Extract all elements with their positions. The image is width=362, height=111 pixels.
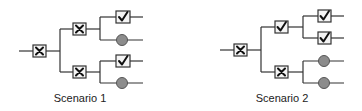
scenario-1-tree bbox=[19, 11, 143, 89]
scenario-1-label: Scenario 1 bbox=[54, 92, 107, 104]
leaf-circle-node bbox=[319, 78, 330, 89]
leaf-check-node bbox=[116, 55, 130, 67]
leaf-circle-node bbox=[117, 35, 128, 46]
root-x-node bbox=[33, 45, 46, 57]
scenario-2-tree bbox=[220, 10, 344, 89]
root-x-node bbox=[234, 44, 247, 56]
level1-bottom-x-node bbox=[275, 66, 288, 78]
level1-bottom-x-node bbox=[73, 66, 86, 78]
leaf-check-node bbox=[116, 11, 130, 23]
leaf-circle-node bbox=[319, 56, 330, 67]
level1-top-x-node bbox=[73, 23, 86, 35]
level1-top-check-node bbox=[275, 21, 288, 33]
leaf-check-node bbox=[318, 32, 331, 44]
leaf-check-node bbox=[318, 10, 331, 22]
scenario-2-label: Scenario 2 bbox=[256, 92, 309, 104]
leaf-circle-node bbox=[117, 78, 128, 89]
